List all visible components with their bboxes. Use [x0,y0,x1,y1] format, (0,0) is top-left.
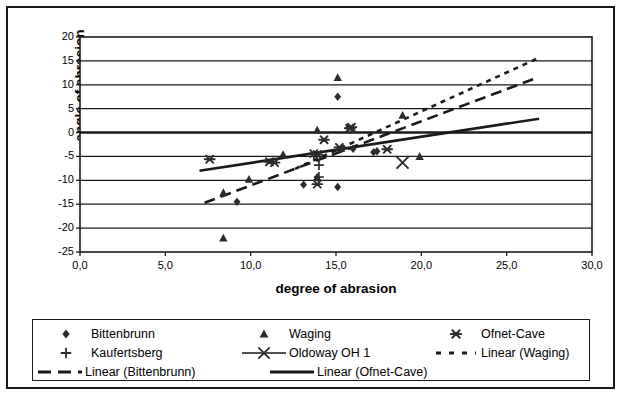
legend-label: Kaufertsberg [89,346,163,360]
legend-item[interactable]: Bittenbrunn [43,324,155,344]
legend-label: Oldoway OH 1 [287,346,370,360]
legend-key-glyph [269,364,315,380]
legend-item[interactable]: Linear (Waging) [433,343,569,363]
legend-key-long-dash-icon [37,362,83,382]
marker-asterisk-x [451,330,461,337]
chart-legend: BittenbrunnWagingOfnet-CaveKaufertsbergO… [32,319,590,381]
legend-item[interactable]: Linear (Ofnet-Cave) [269,362,427,382]
marker-diamond [62,330,69,339]
legend-label: Ofnet-Cave [479,327,545,341]
legend-key-line-x-icon [241,343,287,363]
legend-item[interactable]: Linear (Bittenbrunn) [37,362,195,382]
legend-key-glyph [433,326,479,342]
legend-key-glyph [37,364,83,380]
legend-key-solid-icon [269,362,315,382]
legend-key-glyph [43,326,89,342]
legend-key-glyph [241,345,287,361]
legend-item[interactable]: Oldoway OH 1 [241,343,370,363]
legend-key-triangle-icon [241,324,287,344]
legend-key-glyph [241,326,287,342]
legend-label: Bittenbrunn [89,327,155,341]
chart-figure: angle of abrasion degree of abrasion 201… [0,0,623,397]
legend-item[interactable]: Waging [241,324,331,344]
legend-label: Linear (Bittenbrunn) [83,365,195,379]
legend-label: Waging [287,327,331,341]
legend-key-diamond-icon [43,324,89,344]
legend-label: Linear (Ofnet-Cave) [315,365,427,379]
legend-key-asterisk-x-icon [433,324,479,344]
legend-key-glyph [433,345,479,361]
legend-key-plus-icon [43,343,89,363]
legend-item[interactable]: Ofnet-Cave [433,324,545,344]
plot-area [0,0,623,300]
legend-label: Linear (Waging) [479,346,569,360]
legend-key-glyph [43,345,89,361]
marker-triangle [260,329,269,337]
legend-item[interactable]: Kaufertsberg [43,343,163,363]
marker-plus [61,348,72,359]
legend-key-dotted-dash-icon [433,343,479,363]
